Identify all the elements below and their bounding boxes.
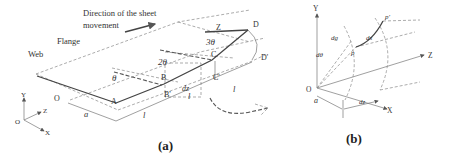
angle-theta: θ — [112, 73, 117, 83]
label-dg: dg — [331, 34, 339, 42]
dim-dz: dz — [182, 84, 190, 93]
point-d: D — [253, 20, 259, 29]
point-a: A — [111, 97, 117, 106]
axis-origin-label-a: O — [15, 118, 20, 126]
point-z: Z — [216, 23, 221, 32]
point-c: C — [211, 50, 216, 59]
label-dtheta: dθ — [316, 51, 324, 59]
label-a-b: a — [314, 96, 318, 105]
point-b-prime: B' — [164, 90, 171, 99]
top-edge-z — [205, 30, 248, 32]
angle-3theta: 3θ — [205, 37, 216, 47]
zoom-arrow — [210, 98, 268, 113]
point-c-prime: C' — [213, 73, 220, 82]
axis-origin-label-b: O — [306, 85, 312, 94]
axis-z-b — [317, 55, 424, 88]
label-dz-b: dz — [359, 98, 366, 106]
axis-z-label-b: Z — [428, 51, 433, 60]
figure-canvas: Y Z X O Direction of the shee — [0, 0, 454, 161]
web-edge — [37, 76, 116, 103]
label-ds: ds — [366, 34, 373, 42]
panel-b: Y Z X O dg ds dθ p p' a dz (b) — [306, 4, 433, 146]
web-label: Web — [28, 49, 43, 59]
arc-outer — [375, 18, 388, 90]
direction-arrow — [125, 24, 155, 32]
arc-inner — [344, 26, 354, 100]
axis-x-label-a: X — [45, 129, 50, 137]
direction-label-2: movement — [83, 20, 120, 30]
angle-2theta: 2θ — [158, 57, 168, 67]
label-p-prime: p' — [384, 13, 391, 21]
dim-l-1: l — [143, 110, 146, 120]
panel-a: Y Z X O Direction of the shee — [15, 8, 269, 153]
axis-y-label-b: Y — [313, 4, 319, 13]
label-p: p — [350, 49, 355, 57]
flange-label: Flange — [57, 36, 80, 46]
direction-label-1: Direction of the sheet — [83, 8, 157, 18]
caption-b: (b) — [346, 131, 362, 146]
axis-y-label-a: Y — [21, 91, 26, 99]
caption-a: (a) — [158, 138, 173, 153]
point-b: B — [161, 73, 166, 82]
axes-triad-a — [24, 98, 44, 131]
axis-z-label-a: Z — [43, 107, 47, 115]
point-d-prime: D' — [261, 53, 269, 62]
dim-a: a — [84, 109, 88, 119]
dim-l-3: l — [233, 84, 236, 94]
point-o: O — [54, 94, 60, 103]
axis-x-label-b: X — [387, 106, 393, 115]
axis-x-b — [317, 88, 387, 109]
